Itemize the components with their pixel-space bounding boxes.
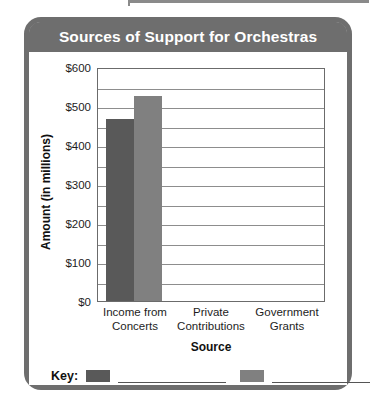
y-tick-label: $300 — [65, 179, 91, 191]
y-tick-label: $0 — [78, 296, 91, 308]
y-tick-label: $200 — [65, 218, 91, 230]
y-axis-ticks: $0$100$200$300$400$500$600 — [29, 68, 91, 302]
chart-header: Sources of Support for Orchestras — [29, 22, 347, 52]
page-top-rule-tick — [128, 0, 130, 6]
x-tick-label: PrivateContributions — [173, 306, 249, 333]
x-tick-label: Income fromConcerts — [97, 306, 173, 333]
x-tick-label: GovernmentGrants — [249, 306, 325, 333]
key-swatch-series-1 — [86, 370, 110, 382]
bar-group — [98, 69, 324, 301]
key-blank-line-series-2[interactable] — [272, 370, 370, 383]
chart-title: Sources of Support for Orchestras — [59, 28, 317, 46]
chart-body: Amount (in millions) $0$100$200$300$400$… — [29, 52, 347, 385]
y-tick-label: $500 — [65, 101, 91, 113]
x-axis-title: Source — [97, 340, 325, 354]
plot-area — [97, 68, 325, 302]
key-label: Key: — [51, 369, 78, 383]
page-top-rule — [128, 0, 369, 3]
key-blank-line-series-1[interactable] — [118, 370, 226, 383]
x-axis-labels: Income fromConcertsPrivateContributionsG… — [97, 306, 325, 333]
chart-key: Key: — [51, 365, 341, 387]
bar — [134, 96, 162, 301]
chart-card: Sources of Support for Orchestras Amount… — [24, 17, 352, 390]
bar-chart: Amount (in millions) $0$100$200$300$400$… — [29, 52, 347, 390]
bar — [106, 119, 134, 301]
key-swatch-series-2 — [240, 370, 264, 382]
y-tick-label: $400 — [65, 140, 91, 152]
y-tick-label: $100 — [65, 257, 91, 269]
y-tick-label: $600 — [65, 62, 91, 74]
